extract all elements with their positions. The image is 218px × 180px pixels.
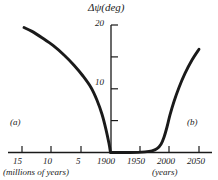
x-axis-unit-left: (millions of years) [3,168,69,177]
panel-label-b: (b) [187,118,198,127]
y-axis-ticks [111,25,118,121]
x-tick-label-1900: 1900 [97,157,115,166]
x-tick-label-1950: 1950 [127,157,145,166]
plot-canvas [0,0,218,180]
x-tick-label-5: 5 [76,157,81,166]
y-tick-label-10: 10 [95,78,104,87]
x-tick-label-2000: 2000 [157,157,175,166]
y-tick-label-20: 20 [95,19,104,28]
y-axis-title: Δψ(deg) [88,2,125,13]
x-tick-label-15: 15 [13,157,22,166]
x-tick-label-10: 10 [43,157,52,166]
obliquity-change-figure: Δψ(deg) 20 10 15 10 5 1900 1950 2000 205… [0,0,218,180]
x-tick-label-2050: 2050 [187,157,205,166]
x-axis-unit-right: (years) [152,168,178,177]
curve-a-past [24,28,111,153]
panel-label-a: (a) [10,118,21,127]
curve-b-future [111,49,199,152]
x-axis-ticks-left [22,146,81,153]
